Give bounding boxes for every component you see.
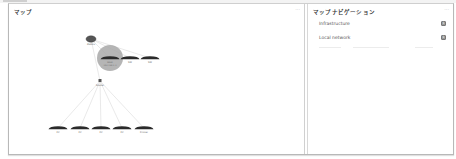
switch-icon — [135, 126, 154, 129]
nav-item-infrastructure[interactable]: Infrastructure 1 — [308, 18, 454, 32]
nav-item-label: Infrastructure — [319, 21, 350, 26]
server-icon — [86, 36, 96, 42]
router-icon — [99, 79, 102, 82]
problem-count-badge: 1 — [441, 21, 446, 26]
switch-icon — [71, 126, 90, 129]
switch-icon — [141, 56, 160, 59]
map-node-leaf3[interactable]: PC — [92, 126, 111, 134]
map-node-sw3[interactable]: SW — [141, 56, 160, 64]
map-nodes: ZabbixHost192.168.1.1SWSWRouterPCPCPCPCP… — [49, 36, 160, 134]
map-node-highlight[interactable]: Host192.168.1.1 — [97, 45, 123, 71]
problem-count-badge: 1 — [441, 35, 446, 40]
map-node-root[interactable]: Zabbix — [86, 36, 96, 46]
dashboard-frame: マップ ··· ZabbixHost192.168.1.1SWSWRouterP… — [8, 3, 454, 155]
map-node-sw2[interactable]: SW — [121, 56, 140, 64]
map-node-leaf4[interactable]: PC — [113, 126, 132, 134]
map-link — [80, 81, 100, 128]
map-node-label: SW — [148, 61, 153, 64]
switch-icon — [49, 126, 68, 129]
map-node-label: Printer — [140, 131, 148, 134]
map-node-leaf2[interactable]: PC — [71, 126, 90, 134]
map-node-label: Zabbix — [87, 43, 96, 46]
map-navigation-list: Infrastructure 1 Local network 1 — [308, 18, 454, 46]
map-link — [100, 81, 144, 128]
network-map[interactable]: ZabbixHost192.168.1.1SWSWRouterPCPCPCPCP… — [9, 4, 305, 154]
map-node-label: SW — [128, 61, 133, 64]
switch-icon — [121, 56, 140, 59]
map-node-label: PC — [78, 131, 81, 134]
nav-divider — [319, 47, 447, 49]
map-link — [58, 81, 100, 128]
map-node-label: PC — [56, 131, 59, 134]
switch-icon — [113, 126, 132, 129]
map-node-leaf5[interactable]: Printer — [135, 126, 154, 134]
map-widget: マップ ··· ZabbixHost192.168.1.1SWSWRouterP… — [9, 4, 305, 154]
switch-icon — [92, 126, 111, 129]
map-navigation-widget: マップナビゲーション ··· Infrastructure 1 Local ne… — [307, 4, 453, 154]
nav-item-local-network[interactable]: Local network 1 — [308, 32, 454, 46]
map-node-sublabel: 192.168.1.1 — [103, 64, 117, 67]
breadcrumb[interactable] — [3, 0, 27, 2]
map-link — [100, 81, 122, 128]
map-node-label: Router — [96, 84, 104, 87]
map-node-label: PC — [99, 131, 102, 134]
more-icon[interactable]: ··· — [444, 8, 449, 11]
map-navigation-title: マップナビゲーション — [313, 8, 375, 16]
map-node-leaf1[interactable]: PC — [49, 126, 68, 134]
map-link — [100, 81, 101, 128]
map-node-label: PC — [120, 131, 123, 134]
nav-item-label: Local network — [319, 35, 350, 40]
